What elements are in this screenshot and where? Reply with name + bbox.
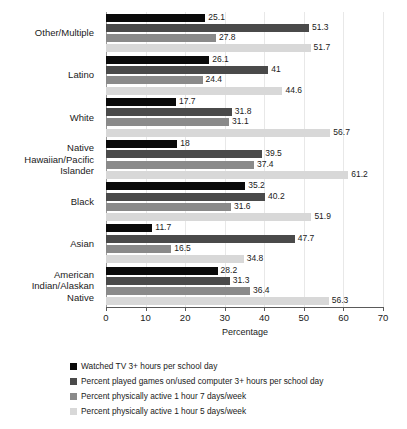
x-tick-label-60: 60 (328, 312, 358, 324)
legend-item: Percent physically active 1 hour 5 days/… (70, 405, 400, 418)
legend-swatch-icon (70, 408, 77, 415)
bar-group: 17.731.831.156.7 (106, 96, 383, 138)
bar-value-label: 31.3 (233, 274, 250, 287)
legend-label: Percent physically active 1 hour 7 days/… (81, 390, 246, 403)
x-tick-40 (264, 307, 265, 311)
bar (106, 150, 262, 158)
bar-row: 39.5 (106, 150, 383, 158)
bar-group: 26.14124.444.6 (106, 54, 383, 96)
category-label: Black (0, 196, 100, 208)
bar (106, 140, 177, 148)
bar (106, 267, 218, 275)
x-tick-label-10: 10 (131, 312, 161, 324)
bar (106, 297, 329, 305)
bar-value-label: 34.8 (247, 252, 264, 265)
category-label: Asian (0, 238, 100, 250)
bar-value-label: 56.3 (332, 294, 349, 307)
category-label: NativeHawaiian/PacificIslander (0, 142, 100, 177)
bar-row: 24.4 (106, 76, 383, 84)
x-tick-60 (343, 307, 344, 311)
bar (106, 182, 245, 190)
bar-value-label: 51.3 (312, 21, 329, 34)
plot-area: 25.151.327.851.726.14124.444.617.731.831… (106, 12, 383, 307)
x-tick-50 (304, 307, 305, 311)
x-tick-30 (225, 307, 226, 311)
x-tick-label-50: 50 (289, 312, 319, 324)
category-axis-labels: Other/MultipleLatinoWhiteNativeHawaiian/… (0, 12, 100, 307)
bar-value-label: 27.8 (219, 31, 236, 44)
bar (106, 34, 216, 42)
bar (106, 287, 250, 295)
bar-row: 31.6 (106, 203, 383, 211)
x-axis-line (106, 307, 384, 308)
x-tick-label-70: 70 (368, 312, 398, 324)
legend-swatch-icon (70, 393, 77, 400)
bar (106, 235, 295, 243)
bar-value-label: 26.1 (212, 53, 229, 66)
x-tick-label-40: 40 (249, 312, 279, 324)
bar-value-label: 17.7 (179, 95, 196, 108)
bar (106, 255, 244, 263)
x-tick-70 (383, 307, 384, 311)
legend-item: Percent physically active 1 hour 7 days/… (70, 390, 400, 403)
bar-value-label: 51.9 (314, 210, 331, 223)
bar-group: 35.240.231.651.9 (106, 181, 383, 223)
bar (106, 213, 311, 221)
bar-value-label: 36.4 (253, 284, 270, 297)
x-tick-label-30: 30 (210, 312, 240, 324)
bar-row: 27.8 (106, 34, 383, 42)
legend-swatch-icon (70, 363, 77, 370)
legend-item: Percent played games on/used computer 3+… (70, 375, 400, 388)
bar-row: 34.8 (106, 255, 383, 263)
bar (106, 87, 282, 95)
bar-value-label: 31.1 (232, 115, 249, 128)
category-label: Other/Multiple (0, 27, 100, 39)
grouped-bar-chart: Other/MultipleLatinoWhiteNativeHawaiian/… (0, 0, 407, 429)
bar-row: 51.9 (106, 213, 383, 221)
bar-row: 16.5 (106, 245, 383, 253)
bar-value-label: 56.7 (333, 126, 350, 139)
bar (106, 129, 330, 137)
bar-row: 41 (106, 66, 383, 74)
bar-value-label: 47.7 (298, 232, 315, 245)
bar-group: 25.151.327.851.7 (106, 12, 383, 54)
bar (106, 277, 230, 285)
bar-row: 56.3 (106, 297, 383, 305)
bar (106, 161, 254, 169)
bar (106, 56, 209, 64)
category-label: Latino (0, 69, 100, 81)
legend-swatch-icon (70, 378, 77, 385)
bar (106, 14, 205, 22)
bar-group: 11.747.716.534.8 (106, 223, 383, 265)
bar-row: 47.7 (106, 235, 383, 243)
bar-row: 51.3 (106, 24, 383, 32)
bar (106, 224, 152, 232)
bar (106, 118, 229, 126)
legend-item: Watched TV 3+ hours per school day (70, 360, 400, 373)
bar-group: 28.231.336.456.3 (106, 265, 383, 307)
bar (106, 108, 232, 116)
bar (106, 171, 348, 179)
bar-value-label: 51.7 (314, 41, 331, 54)
bar-value-label: 44.6 (285, 84, 302, 97)
bar-row: 18 (106, 140, 383, 148)
bar-value-label: 35.2 (248, 179, 265, 192)
legend-label: Percent physically active 1 hour 5 days/… (81, 405, 246, 418)
bar-row: 56.7 (106, 129, 383, 137)
bar-row: 44.6 (106, 87, 383, 95)
bar-value-label: 18 (180, 137, 189, 150)
bar (106, 76, 203, 84)
x-tick-label-0: 0 (91, 312, 121, 324)
gridline-70 (383, 12, 384, 307)
legend-label: Watched TV 3+ hours per school day (81, 360, 217, 373)
bar-row: 31.3 (106, 277, 383, 285)
legend-label: Percent played games on/used computer 3+… (81, 375, 323, 388)
bar (106, 245, 171, 253)
bar-value-label: 16.5 (174, 242, 191, 255)
bar-value-label: 24.4 (206, 73, 223, 86)
bar (106, 203, 231, 211)
bar (106, 98, 176, 106)
bar-row: 25.1 (106, 14, 383, 22)
bar (106, 66, 268, 74)
bar-value-label: 11.7 (155, 221, 171, 234)
